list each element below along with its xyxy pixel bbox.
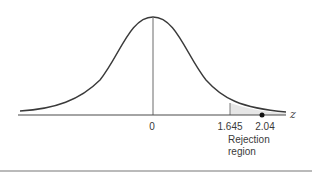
rejection-region-shade [230,103,286,115]
axis-label-z: z [290,108,296,121]
test-statistic-point [260,113,265,118]
tick-label-critical: 1.645 [217,121,242,132]
rejection-label-line2: region [228,146,256,157]
normal-curve-plot [0,0,312,175]
tick-label-statistic: 2.04 [255,121,274,132]
tick-label-zero: 0 [149,121,155,132]
rejection-label-line1: Rejection [228,134,270,145]
